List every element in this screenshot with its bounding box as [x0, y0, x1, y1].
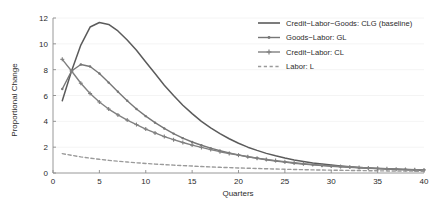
- legend-label-CLG: Credit−Labor−Goods: CLG (baseline): [286, 19, 413, 28]
- y-axis-title: Proportional Change: [10, 63, 19, 137]
- marker-GL: [80, 63, 82, 65]
- y-tick-label: 4: [44, 117, 49, 126]
- marker-CL: [376, 166, 380, 170]
- marker-GL: [154, 121, 156, 123]
- series-line-GL: [62, 65, 424, 171]
- marker-CL: [153, 131, 157, 135]
- marker-GL: [172, 132, 174, 134]
- marker-CL: [283, 160, 287, 164]
- y-tick-label: 12: [39, 14, 48, 23]
- marker-CL: [181, 141, 185, 145]
- marker-GL: [135, 108, 137, 110]
- legend-item-CL: Credit−Labor: CL: [258, 48, 344, 57]
- marker-CL: [255, 156, 259, 160]
- marker-CL: [274, 159, 278, 163]
- marker-CL: [292, 161, 296, 165]
- chart-legend: Credit−Labor−Goods: CLG (baseline)Goods−…: [258, 19, 413, 72]
- x-axis-title: Quarters: [222, 189, 253, 198]
- series-layer: [60, 23, 426, 172]
- marker-CL: [237, 153, 241, 157]
- marker-GL: [191, 141, 193, 143]
- y-tick-label: 2: [44, 143, 49, 152]
- y-tick-label: 6: [44, 92, 49, 101]
- x-tick-label: 25: [280, 177, 289, 186]
- series-line-CLG: [62, 23, 424, 171]
- marker-CL: [385, 167, 389, 171]
- marker-CL: [357, 166, 361, 170]
- marker-CL: [348, 165, 352, 169]
- marker-CL: [162, 135, 166, 139]
- legend-item-GL: Goods−Labor: GL: [258, 33, 347, 42]
- marker-GL: [117, 90, 119, 92]
- marker-GL: [126, 99, 128, 101]
- marker-CL: [172, 138, 176, 142]
- marker-GL: [61, 88, 63, 90]
- y-tick-label: 8: [44, 66, 49, 75]
- marker-CL: [366, 166, 370, 170]
- line-chart: 0510152025303540024681012 Credit−Labor−G…: [0, 0, 444, 205]
- marker-GL: [89, 65, 91, 67]
- x-tick-label: 30: [327, 177, 336, 186]
- legend-item-CLG: Credit−Labor−Goods: CLG (baseline): [258, 19, 413, 28]
- marker-GL: [98, 72, 100, 74]
- x-tick-label: 0: [51, 177, 56, 186]
- legend-label-GL: Goods−Labor: GL: [286, 33, 347, 42]
- x-tick-label: 35: [373, 177, 382, 186]
- marker-CL: [246, 155, 250, 159]
- x-tick-label: 20: [234, 177, 243, 186]
- marker-GL: [182, 137, 184, 139]
- x-tick-label: 15: [188, 177, 197, 186]
- chart-figure: 0510152025303540024681012 Credit−Labor−G…: [0, 0, 444, 205]
- marker-GL: [107, 81, 109, 83]
- y-tick-label: 10: [39, 40, 48, 49]
- legend-label-CL: Credit−Labor: CL: [286, 48, 344, 57]
- marker-CL: [264, 157, 268, 161]
- x-tick-label: 5: [97, 177, 102, 186]
- marker-GL: [145, 115, 147, 117]
- y-tick-label: 0: [44, 169, 49, 178]
- marker-CL: [190, 143, 194, 147]
- x-tick-label: 40: [420, 177, 429, 186]
- x-tick-label: 10: [141, 177, 150, 186]
- marker-GL: [163, 127, 165, 129]
- legend-marker-GL: [268, 36, 271, 39]
- legend-label-L: Labor: L: [286, 62, 314, 71]
